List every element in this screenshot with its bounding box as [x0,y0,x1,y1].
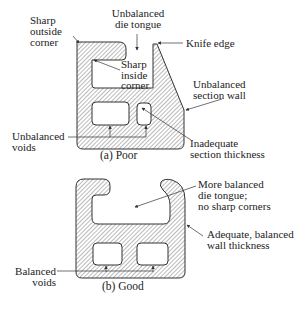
label-balanced-voids: Balanced voids [14,266,56,288]
label-unbalanced-die-tongue: Unbalanced die tongue [110,8,166,30]
label-line: section thickness [190,149,265,160]
label-line: no sharp corners [198,201,271,212]
caption-poor: (a) Poor [100,149,137,161]
label-sharp-outside-corner: Sharp outside corner [30,15,62,48]
caption-good: (b) Good [102,280,144,292]
label-inadequate-section-thickness: Inadequate section thickness [190,138,265,160]
label-knife-edge: Knife edge [186,38,235,49]
label-more-balanced-die-tongue: More balanced die tongue; no sharp corne… [198,179,271,212]
label-adequate-wall-thickness: Adequate, balanced wall thickness [207,229,294,251]
good-section-shape [76,179,185,278]
label-line: voids [14,277,56,288]
label-unbalanced-section-wall: Unbalanced section wall [193,79,246,101]
label-line: die tongue [110,19,166,30]
label-sharp-inside-corner: Sharp inside corner [121,59,149,91]
label-line: wall thickness [207,240,294,251]
label-line: section wall [193,90,246,101]
label-line: corner [30,37,62,48]
label-unbalanced-voids: Unbalanced voids [12,131,65,153]
label-line: voids [12,142,65,153]
label-line: corner [121,80,149,91]
label-line: Sharp [121,59,149,70]
